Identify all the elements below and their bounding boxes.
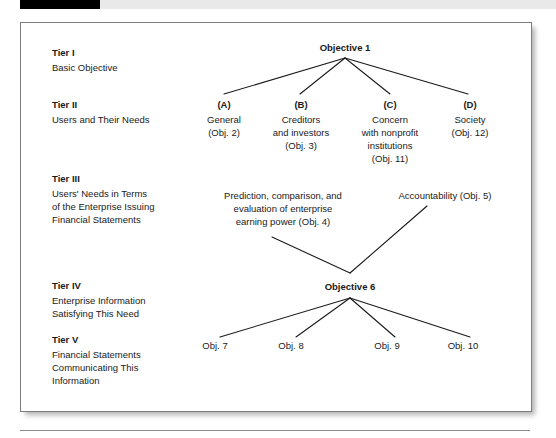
need-left-line-3: earning power (Obj. 4) [236,216,331,228]
tier-1-name: Tier I [52,47,75,59]
tier-4-name: Tier IV [52,280,81,292]
node-c-key: (C) [383,99,396,111]
node-objective-1: Objective 1 [320,42,371,54]
tier-4-desc-line-1: Enterprise Information [52,295,145,307]
node-c-line-4: (Obj. 11) [372,153,408,165]
node-a-key: (A) [217,99,230,111]
node-objective-6: Objective 6 [325,281,376,293]
tier-3-desc-line-2: of the Enterprise Issuing [52,201,154,213]
node-a-line-2: (Obj. 2) [208,127,240,139]
node-c-line-1: Concern [372,114,408,126]
footer-divider [20,430,530,431]
node-obj-7: Obj. 7 [202,340,227,352]
node-obj-10: Obj. 10 [448,340,479,352]
need-right-line-1: Accountability (Obj. 5) [399,190,492,202]
tier-3-desc-line-1: Users' Needs in Terms [52,188,147,200]
tier-2-name: Tier II [52,99,77,111]
node-b-line-1: Creditors [282,114,321,126]
header-bar-gray [20,0,556,9]
node-obj-9: Obj. 9 [374,340,399,352]
node-c-line-2: with nonprofit [362,127,419,139]
node-obj-8: Obj. 8 [278,340,303,352]
need-left-line-1: Prediction, comparison, and [224,190,342,202]
node-a-line-1: General [207,114,241,126]
node-d-key: (D) [463,99,476,111]
node-d-line-2: (Obj. 12) [452,127,489,139]
tier-5-name: Tier V [52,334,78,346]
tier-5-desc-line-3: Information [52,375,100,387]
header-bar-black [20,0,100,9]
tier-1-desc-line-1: Basic Objective [52,62,117,74]
node-b-line-2: and investors [273,127,330,139]
tier-5-desc-line-1: Financial Statements [52,349,141,361]
tier-3-desc-line-3: Financial Statements [52,214,141,226]
tier-4-desc-line-2: Satisfying This Need [52,308,139,320]
need-left-line-2: evaluation of enterprise [234,203,333,215]
node-d-line-1: Society [454,114,485,126]
tier-3-name: Tier III [52,173,80,185]
node-b-key: (B) [294,99,307,111]
tier-5-desc-line-2: Communicating This [52,362,138,374]
tier-2-desc-line-1: Users and Their Needs [52,114,150,126]
node-c-line-3: institutions [368,140,413,152]
exhibit-page: Tier I Basic Objective Tier II Users and… [0,0,556,438]
node-b-line-3: (Obj. 3) [285,140,317,152]
